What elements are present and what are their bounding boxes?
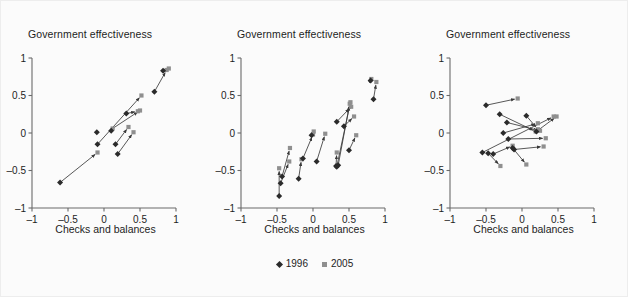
svg-text:0: 0 xyxy=(229,128,235,139)
svg-text:1: 1 xyxy=(438,53,444,64)
panel-3-xlabel: Checks and balances xyxy=(419,223,628,235)
panel-1-xlabel: Checks and balances xyxy=(1,223,210,235)
svg-text:0.5: 0.5 xyxy=(430,90,444,101)
svg-text:–1: –1 xyxy=(15,203,27,214)
chart-panel-1: Government effectiveness –1–0.500.51–1–0… xyxy=(1,1,210,263)
svg-text:–0.5: –0.5 xyxy=(425,165,445,176)
figure-root: Government effectiveness –1–0.500.51–1–0… xyxy=(0,0,628,297)
diamond-marker-icon xyxy=(276,260,283,267)
svg-text:0: 0 xyxy=(438,128,444,139)
square-marker-icon xyxy=(322,262,327,267)
panel-2-xlabel: Checks and balances xyxy=(210,223,419,235)
svg-text:–1: –1 xyxy=(433,203,445,214)
chart-panel-2: Government effectiveness –1–0.500.51–1–0… xyxy=(210,1,419,263)
svg-text:0.5: 0.5 xyxy=(12,90,26,101)
svg-text:1: 1 xyxy=(20,53,26,64)
svg-text:–0.5: –0.5 xyxy=(216,165,236,176)
svg-text:0.5: 0.5 xyxy=(221,90,235,101)
legend-item-2005: 2005 xyxy=(322,259,353,269)
svg-text:–0.5: –0.5 xyxy=(7,165,27,176)
chart-panel-3: Government effectiveness –1–0.500.51–1–0… xyxy=(419,1,628,263)
svg-text:1: 1 xyxy=(229,53,235,64)
chart-legend: 1996 2005 xyxy=(1,259,628,269)
legend-label-2005: 2005 xyxy=(331,259,353,269)
legend-label-1996: 1996 xyxy=(286,259,308,269)
svg-text:–1: –1 xyxy=(224,203,236,214)
svg-text:0: 0 xyxy=(20,128,26,139)
legend-item-1996: 1996 xyxy=(277,259,308,269)
panel-row: Government effectiveness –1–0.500.51–1–0… xyxy=(1,1,628,263)
